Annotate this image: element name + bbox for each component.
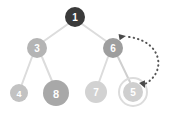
node-8[interactable]: 8 (43, 80, 69, 106)
node-3[interactable]: 3 (27, 38, 47, 58)
node-3-label: 3 (34, 43, 40, 54)
edge-root-to-right (82, 24, 106, 41)
edge-left-to-leftright (42, 57, 52, 81)
node-6[interactable]: 6 (103, 38, 123, 58)
tree-canvas: 1 3 6 4 8 7 (0, 0, 175, 117)
node-1[interactable]: 1 (65, 7, 85, 27)
node-4-label: 4 (16, 89, 21, 99)
edge-root-to-left (44, 24, 68, 41)
edge-right-to-rightleft (99, 57, 108, 82)
node-1-label: 1 (72, 12, 78, 23)
node-4[interactable]: 4 (10, 84, 28, 102)
edge-left-to-leftleft (22, 57, 32, 84)
node-7-label: 7 (93, 87, 99, 98)
node-8-label: 8 (53, 88, 59, 100)
swap-arrowhead-to-node-6 (119, 33, 127, 41)
binary-tree-diagram: 1 3 6 4 8 7 (0, 0, 175, 117)
node-6-label: 6 (110, 43, 116, 54)
node-5[interactable]: 5 (123, 82, 143, 102)
tree-nodes: 1 3 6 4 8 7 (10, 7, 143, 106)
node-5-label: 5 (130, 87, 136, 98)
node-7[interactable]: 7 (85, 81, 107, 103)
